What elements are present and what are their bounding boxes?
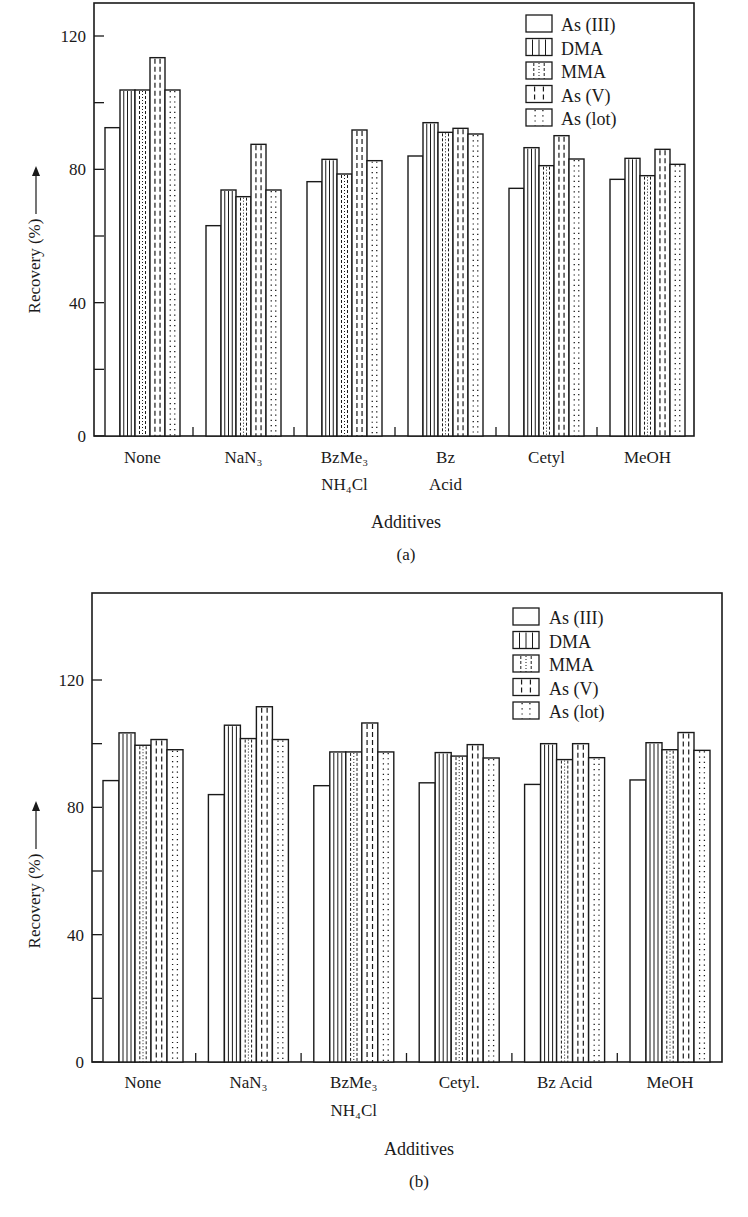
- legend-swatch: [526, 62, 552, 79]
- x-tick-label: Cetyl: [528, 448, 565, 467]
- y-axis: 04080120: [61, 27, 105, 446]
- legend: As (III)DMAMMAAs (V)As (lot): [513, 608, 605, 723]
- bar: [378, 752, 394, 1062]
- bar: [554, 136, 569, 436]
- bar: [419, 783, 435, 1062]
- bar: [468, 134, 483, 436]
- bar: [236, 197, 251, 436]
- y-tick-label: 40: [67, 926, 84, 945]
- y-tick-label: 120: [61, 27, 87, 46]
- legend-label: As (V): [549, 679, 599, 700]
- y-tick-label: 80: [67, 798, 84, 817]
- bar: [467, 745, 483, 1062]
- legend-swatch: [513, 679, 539, 696]
- legend-label: As (III): [549, 608, 603, 629]
- bar: [362, 723, 378, 1062]
- plot-frame: [92, 593, 722, 1062]
- y-tick-label: 40: [69, 294, 86, 313]
- legend-item: As (lot): [513, 702, 605, 723]
- bar: [509, 188, 524, 436]
- bar-chart-b: 04080120Recovery (%)NoneNaN₃BzMe₃NH₄ClCe…: [0, 590, 748, 1217]
- legend-label: As (III): [561, 15, 615, 36]
- bar-chart-a: 04080120Recovery (%)NoneNaN₃BzMe₃NH₄ClBz…: [0, 0, 748, 590]
- bar: [525, 784, 541, 1062]
- bar: [694, 750, 710, 1062]
- bars: [103, 707, 710, 1062]
- x-tick-label: NaN₃: [229, 1073, 267, 1092]
- legend-swatch: [513, 655, 539, 672]
- chart-panel-a: 04080120Recovery (%)NoneNaN₃BzMe₃NH₄ClBz…: [0, 0, 748, 590]
- bar-group: [419, 745, 499, 1062]
- bar: [453, 128, 468, 436]
- legend-swatch: [526, 15, 552, 32]
- y-axis-label: Recovery (%): [25, 854, 44, 949]
- legend-item: DMA: [513, 632, 591, 652]
- x-tick-label: Cetyl.: [439, 1073, 480, 1092]
- arrow-head-icon: [32, 801, 40, 811]
- x-axis-label: Additives: [384, 1139, 454, 1159]
- legend-item: As (V): [513, 679, 599, 700]
- bar: [167, 750, 183, 1062]
- panel-label: (b): [409, 1172, 429, 1191]
- bar: [103, 781, 119, 1062]
- legend-item: As (V): [526, 86, 611, 107]
- bar: [266, 190, 281, 436]
- bar: [251, 144, 266, 436]
- bar: [150, 58, 165, 436]
- arrow-head-icon: [32, 166, 40, 176]
- x-axis-label: Additives: [371, 512, 441, 532]
- x-tick-label: Bz: [436, 448, 455, 467]
- y-axis: 04080120: [59, 671, 103, 1072]
- legend-swatch: [526, 109, 552, 126]
- legend-swatch: [526, 86, 552, 103]
- panel-label: (a): [397, 545, 416, 564]
- x-tick-label: MeOH: [624, 448, 671, 467]
- bar: [206, 226, 221, 436]
- x-tick-label: None: [124, 448, 161, 467]
- bar: [352, 130, 367, 436]
- x-tick-label: None: [125, 1073, 162, 1092]
- legend-item: As (lot): [526, 109, 617, 130]
- legend-item: As (III): [513, 608, 603, 629]
- bar: [208, 795, 224, 1062]
- bar-group: [105, 58, 180, 436]
- legend-item: DMA: [526, 39, 603, 59]
- legend-label: DMA: [561, 39, 603, 59]
- y-tick-label: 0: [76, 1053, 85, 1072]
- bar-group: [610, 149, 685, 436]
- y-axis-label: Recovery (%): [25, 219, 44, 314]
- bar-group: [208, 707, 288, 1062]
- bar: [314, 786, 330, 1062]
- legend-label: MMA: [549, 655, 594, 675]
- bar: [589, 758, 605, 1062]
- bar: [451, 756, 467, 1062]
- x-tick-label: MeOH: [646, 1073, 693, 1092]
- legend-item: MMA: [526, 62, 606, 82]
- legend-label: DMA: [549, 632, 591, 652]
- legend-item: As (III): [526, 15, 615, 36]
- x-tick-label: BzMe₃: [321, 448, 369, 467]
- bar-group: [307, 130, 382, 436]
- bar: [573, 744, 589, 1062]
- bar: [408, 156, 423, 436]
- legend-swatch: [513, 608, 539, 625]
- legend-label: As (lot): [549, 702, 605, 723]
- x-tick-label-line2: NH₄Cl: [321, 475, 368, 494]
- bar: [483, 758, 499, 1062]
- bar: [670, 164, 685, 436]
- legend-label: As (lot): [561, 109, 617, 130]
- y-tick-label: 0: [78, 427, 87, 446]
- bar: [630, 780, 646, 1062]
- bar: [367, 161, 382, 436]
- bar-group: [314, 723, 394, 1062]
- bar: [256, 707, 272, 1062]
- bar-group: [103, 733, 183, 1062]
- bar: [151, 740, 167, 1062]
- bar: [610, 179, 625, 436]
- bar: [165, 90, 180, 436]
- legend: As (III)DMAMMAAs (V)As (lot): [526, 15, 617, 130]
- bar-group: [525, 744, 605, 1062]
- bar: [272, 740, 288, 1062]
- chart-panel-b: 04080120Recovery (%)NoneNaN₃BzMe₃NH₄ClCe…: [0, 590, 748, 1217]
- bar: [569, 159, 584, 436]
